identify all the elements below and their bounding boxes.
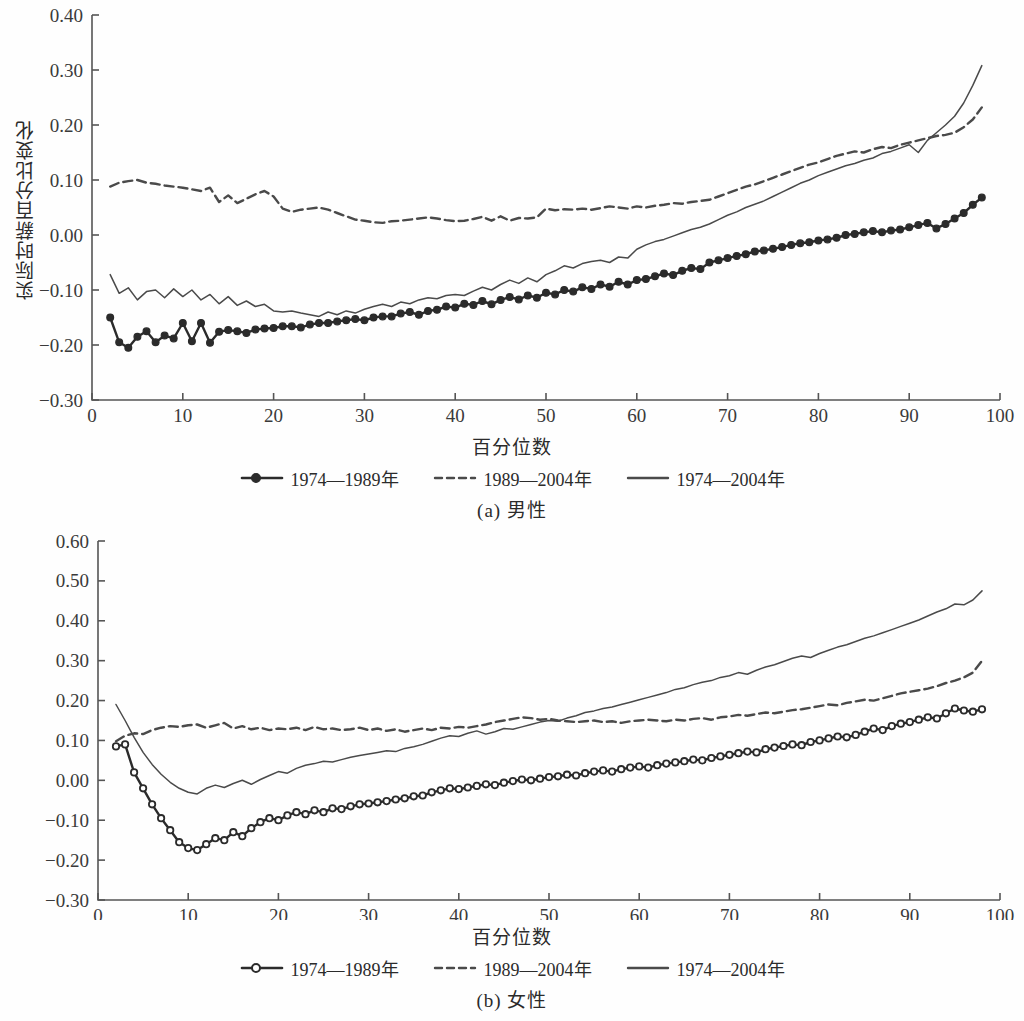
- series-marker: [844, 734, 850, 740]
- series-marker: [438, 787, 444, 793]
- series-marker: [528, 777, 534, 783]
- series-marker: [960, 210, 967, 217]
- series-marker: [688, 265, 695, 272]
- series-marker: [906, 224, 913, 231]
- x-tick-label: 70: [720, 905, 739, 920]
- figure-caption-b: (b) 女性: [0, 985, 1024, 1012]
- series-marker: [334, 318, 341, 325]
- series-marker: [534, 294, 541, 301]
- series-marker: [807, 739, 813, 745]
- series-marker: [325, 320, 332, 327]
- series-marker: [624, 281, 631, 288]
- series-marker: [771, 744, 777, 750]
- series-marker: [379, 313, 386, 320]
- y-tick-label: −0.30: [45, 890, 89, 911]
- series-marker: [942, 221, 949, 228]
- y-tick-label: 0.60: [56, 531, 89, 552]
- series-marker: [365, 800, 371, 806]
- legend-swatch-solid-marker-filled: [240, 470, 284, 486]
- series-marker: [474, 783, 480, 789]
- series-marker: [663, 760, 669, 766]
- series-marker: [645, 764, 651, 770]
- series-marker: [606, 283, 613, 290]
- series-marker: [122, 741, 128, 747]
- series-marker: [230, 829, 236, 835]
- series-marker: [347, 803, 353, 809]
- series-line-0: [110, 198, 982, 348]
- y-tick-label: 0.30: [50, 60, 83, 81]
- y-tick-label: 0.30: [56, 650, 89, 671]
- legend-item-1[interactable]: 1989—2004年: [433, 465, 592, 491]
- series-marker: [979, 706, 985, 712]
- series-marker: [951, 215, 958, 222]
- series-marker: [851, 231, 858, 238]
- series-marker: [243, 330, 250, 337]
- series-marker: [194, 847, 200, 853]
- series-marker: [456, 786, 462, 792]
- series-marker: [573, 772, 579, 778]
- series-marker: [652, 273, 659, 280]
- x-tick-label: 80: [809, 405, 828, 426]
- series-marker: [879, 229, 886, 236]
- x-tick-label: 90: [900, 905, 919, 920]
- series-marker: [152, 339, 159, 346]
- series-marker: [715, 257, 722, 264]
- series-marker: [970, 709, 976, 715]
- series-marker: [582, 770, 588, 776]
- series-marker: [225, 327, 232, 334]
- series-marker: [806, 239, 813, 246]
- series-marker: [853, 732, 859, 738]
- series-marker: [388, 313, 395, 320]
- x-tick-label: 30: [359, 905, 378, 920]
- series-marker: [915, 222, 922, 229]
- legend-swatch-solid: [626, 960, 670, 976]
- series-marker: [633, 277, 640, 284]
- series-marker: [726, 752, 732, 758]
- series-line-2: [116, 591, 982, 794]
- series-marker: [916, 717, 922, 723]
- series-marker: [488, 301, 495, 308]
- series-marker: [425, 308, 432, 315]
- axis-spine: [92, 15, 1000, 400]
- series-marker: [288, 323, 295, 330]
- legend-swatch-dashed: [433, 470, 477, 486]
- y-tick-label: 0.10: [50, 170, 83, 191]
- y-tick-label: 0.40: [50, 5, 83, 26]
- series-marker: [479, 298, 486, 305]
- series-marker: [125, 344, 132, 351]
- series-marker: [753, 749, 759, 755]
- legend-item-2[interactable]: 1974—2004年: [626, 465, 785, 491]
- y-tick-label: −0.20: [39, 335, 83, 356]
- series-marker: [257, 819, 263, 825]
- x-tick-label: 0: [87, 405, 97, 426]
- series-marker: [564, 772, 570, 778]
- series-marker: [492, 782, 498, 788]
- legend-item-0[interactable]: 1974—1989年: [240, 955, 399, 981]
- x-tick-label: 40: [446, 405, 465, 426]
- series-marker: [588, 286, 595, 293]
- figure-page: 实际时薪百分比变化 −0.30−0.20−0.100.000.100.200.3…: [0, 0, 1024, 1021]
- x-tick-label: 50: [537, 405, 556, 426]
- series-marker: [383, 798, 389, 804]
- x-tick-label: 30: [355, 405, 374, 426]
- series-marker: [134, 333, 141, 340]
- legend-item-2[interactable]: 1974—2004年: [626, 955, 785, 981]
- series-marker: [735, 750, 741, 756]
- series-marker: [833, 234, 840, 241]
- y-tick-label: −0.20: [45, 850, 89, 871]
- series-marker: [643, 276, 650, 283]
- series-marker: [570, 288, 577, 295]
- series-marker: [393, 796, 399, 802]
- series-marker: [618, 766, 624, 772]
- plot-area-b: 实际时薪百分比变化 −0.30−0.20−0.100.000.100.200.3…: [0, 520, 1024, 920]
- series-marker: [293, 809, 299, 815]
- series-marker: [524, 292, 531, 299]
- series-marker: [416, 311, 423, 318]
- legend-item-0[interactable]: 1974—1989年: [240, 465, 399, 491]
- series-marker: [113, 743, 119, 749]
- series-marker: [212, 835, 218, 841]
- series-marker: [297, 324, 304, 331]
- series-marker: [252, 326, 259, 333]
- x-tick-label: 70: [718, 405, 737, 426]
- legend-item-1[interactable]: 1989—2004年: [433, 955, 592, 981]
